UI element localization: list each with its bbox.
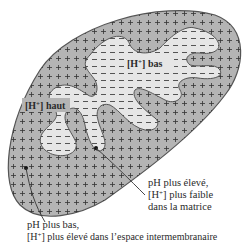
intermembrane-h-label: [H+] haut (25, 100, 65, 111)
callout-intermembrane-line1: pH plus bas, (27, 219, 79, 230)
callout-intermembrane-line2: [H+] plus élevé dans l’espace intermembr… (27, 231, 217, 242)
matrix-h-label: [H+] bas (127, 58, 162, 69)
callout-matrix-line3: dans la matrice (148, 201, 212, 212)
callout-matrix-line1: pH plus élevé, (148, 177, 208, 188)
callout-matrix-line2: [H+] plus faible (148, 189, 213, 200)
